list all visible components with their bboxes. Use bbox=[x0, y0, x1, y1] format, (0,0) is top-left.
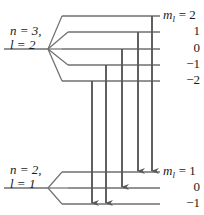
upper-m-value-3: −1 bbox=[178, 57, 200, 71]
lower-state-line1: n = 2, bbox=[10, 163, 42, 177]
upper-m-value-1: 1 bbox=[178, 24, 200, 38]
lower-m-value-2: −1 bbox=[178, 196, 200, 210]
energy-level-diagram: n = 3, l = 2 n = 2, l = 1 ml = 210−1−2ml… bbox=[0, 0, 204, 215]
upper-m-label-0: ml = 2 bbox=[163, 8, 196, 24]
transition-arrows bbox=[92, 16, 152, 203]
upper-fan-leg-4 bbox=[48, 49, 62, 81]
upper-state-label: n = 3, l = 2 bbox=[10, 24, 42, 51]
lower-m-label-0: ml = 1 bbox=[163, 164, 196, 180]
lower-m-symbol-0: m bbox=[163, 163, 172, 178]
upper-m-symbol-0: m bbox=[163, 7, 172, 22]
upper-m-equals-0: = 2 bbox=[175, 7, 195, 22]
lower-m-equals-0: = 1 bbox=[175, 163, 195, 178]
lower-state-line2: l = 1 bbox=[10, 177, 42, 191]
upper-m-value-2: 0 bbox=[178, 41, 200, 55]
lower-state-levels bbox=[62, 172, 160, 204]
lower-state-label: n = 2, l = 1 bbox=[10, 163, 42, 190]
upper-fan-leg-0 bbox=[48, 16, 62, 49]
lower-fan-leg-2 bbox=[48, 188, 62, 204]
upper-state-line2: l = 2 bbox=[10, 38, 42, 52]
upper-m-value-4: −2 bbox=[178, 73, 200, 87]
lower-m-value-1: 0 bbox=[178, 180, 200, 194]
upper-state-line1: n = 3, bbox=[10, 24, 42, 38]
upper-state-levels bbox=[62, 16, 160, 81]
lower-fan-leg-0 bbox=[48, 172, 62, 188]
